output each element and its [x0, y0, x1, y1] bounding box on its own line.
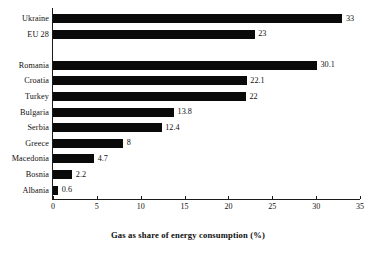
x-tick-label: 20: [216, 202, 240, 212]
category-label: Ukraine: [0, 14, 49, 23]
bar-value-label: 8: [127, 138, 131, 147]
bar-value-label: 4.7: [98, 154, 108, 163]
bar-value-label: 12.4: [165, 123, 179, 132]
category-label: EU 28: [0, 30, 49, 39]
bar: [53, 154, 94, 163]
category-label: Bulgaria: [0, 108, 49, 117]
x-axis-title: Gas as share of energy consumption (%): [0, 230, 376, 240]
category-label: Croatia: [0, 76, 49, 85]
bar-row: 4.7: [53, 154, 360, 163]
bar-row: 22.1: [53, 76, 360, 85]
bar: [53, 30, 255, 39]
bar-row: 0.6: [53, 186, 360, 195]
bar-row: 2.2: [53, 170, 360, 179]
bar: [53, 108, 174, 117]
bar-row: 23: [53, 30, 360, 39]
x-tick-label: 30: [304, 202, 328, 212]
x-tick: [97, 196, 98, 199]
bar-row: 13.8: [53, 108, 360, 117]
category-label: Albania: [0, 186, 49, 195]
bar: [53, 139, 123, 148]
bar-value-label: 33: [346, 14, 354, 23]
x-tick: [316, 196, 317, 199]
x-tick: [228, 196, 229, 199]
x-tick: [141, 196, 142, 199]
x-axis-line: [52, 199, 360, 200]
x-tick-label: 10: [129, 202, 153, 212]
bar: [53, 170, 72, 179]
y-axis-line: [52, 8, 53, 200]
bar: [53, 14, 342, 23]
category-label: Romania: [0, 61, 49, 70]
bar-chart: UkraineEU 28RomaniaCroatiaTurkeyBulgaria…: [0, 0, 376, 254]
bar: [53, 123, 162, 132]
bar-row: 12.4: [53, 123, 360, 132]
category-label: Bosnia: [0, 170, 49, 179]
category-axis-labels: UkraineEU 28RomaniaCroatiaTurkeyBulgaria…: [0, 8, 49, 198]
bar-value-label: 22.1: [250, 76, 264, 85]
category-label: Greece: [0, 139, 49, 148]
bar-value-label: 22: [249, 92, 257, 101]
bar-value-label: 0.6: [62, 185, 72, 194]
category-label: Turkey: [0, 92, 49, 101]
bar: [53, 186, 58, 195]
x-tick-label: 0: [41, 202, 65, 212]
x-tick: [272, 196, 273, 199]
bar-row: 30.1: [53, 61, 360, 70]
x-tick: [360, 196, 361, 199]
bar-row: 22: [53, 92, 360, 101]
bar-row: 33: [53, 14, 360, 23]
x-tick: [185, 196, 186, 199]
bar-row: 8: [53, 139, 360, 148]
bar: [53, 61, 317, 70]
x-tick-label: 5: [85, 202, 109, 212]
bar: [53, 92, 246, 101]
bar-value-label: 23: [258, 29, 266, 38]
bar-value-label: 2.2: [76, 170, 86, 179]
bar-value-label: 13.8: [178, 107, 192, 116]
x-tick: [53, 196, 54, 199]
category-label: Macedonia: [0, 154, 49, 163]
bar: [53, 76, 247, 85]
bar-value-label: 30.1: [321, 60, 335, 69]
x-tick-label: 35: [348, 202, 372, 212]
plot-area: 332330.122.12213.812.484.72.20.6: [53, 8, 360, 198]
category-label: Serbia: [0, 123, 49, 132]
x-tick-label: 15: [173, 202, 197, 212]
x-tick-label: 25: [260, 202, 284, 212]
